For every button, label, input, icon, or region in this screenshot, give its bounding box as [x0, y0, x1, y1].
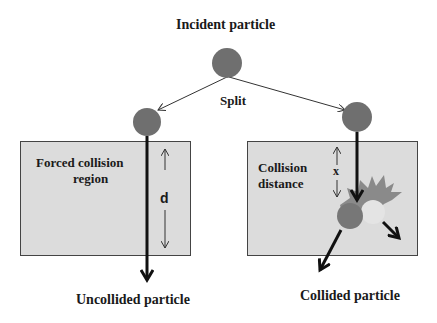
collision-distance-label-line1: Collision: [258, 160, 307, 176]
left-split-particle-circle: [133, 108, 161, 136]
d-distance-label: d: [160, 190, 169, 206]
forced-collision-label-line2: region: [73, 171, 108, 187]
recoil-particle-circle: [361, 200, 385, 224]
collided-particle-circle: [337, 203, 363, 229]
incident-particle-circle: [212, 48, 242, 78]
split-arrow-right: [229, 77, 345, 110]
split-arrow-left: [158, 77, 227, 110]
right-split-particle-circle: [342, 102, 372, 132]
uncollided-particle-label: Uncollided particle: [76, 292, 190, 308]
split-label: Split: [220, 93, 246, 109]
collided-particle-label: Collided particle: [300, 288, 400, 304]
forced-collision-label-line1: Forced collision: [36, 155, 124, 171]
incident-particle-label: Incident particle: [176, 17, 275, 33]
x-distance-label: x: [333, 164, 339, 179]
collision-distance-label-line2: distance: [258, 176, 304, 192]
